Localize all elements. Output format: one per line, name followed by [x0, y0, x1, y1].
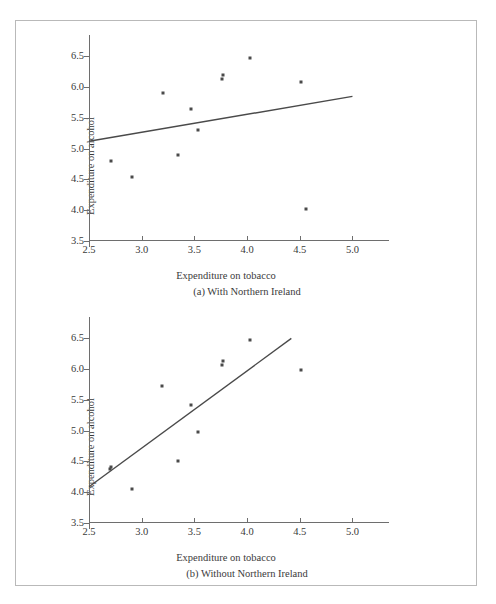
data-point: [160, 384, 163, 387]
data-point: [131, 488, 134, 491]
data-point: [220, 363, 223, 366]
x-tick-label-a-3: 4.0: [241, 245, 254, 256]
data-point: [161, 91, 164, 94]
y-tick-b-1: [84, 492, 89, 493]
y-axis-line-a: [89, 35, 90, 247]
x-tick-label-b-1: 3.0: [135, 527, 148, 538]
x-tick-label-b-4: 4.5: [293, 527, 306, 538]
y-tick-label-a-5: 6.0: [71, 82, 84, 93]
x-tick-label-a-2: 3.5: [188, 245, 201, 256]
data-point: [110, 466, 113, 469]
y-tick-label-a-1: 4.0: [71, 205, 84, 216]
data-point: [176, 154, 179, 157]
chart-panel-b: Expenditure on alcohol 3.54.04.55.05.56.…: [16, 309, 478, 585]
regression-line-b: [89, 323, 363, 523]
y-tick-a-1: [84, 210, 89, 211]
data-point: [221, 359, 224, 362]
data-point: [305, 208, 308, 211]
data-point: [176, 459, 179, 462]
x-tick-b-0: [89, 518, 90, 523]
y-tick-a-5: [84, 87, 89, 88]
x-tick-a-4: [300, 236, 301, 241]
y-tick-label-b-5: 6.0: [71, 364, 84, 375]
data-point: [110, 160, 113, 163]
x-tick-b-1: [142, 518, 143, 523]
y-tick-b-3: [84, 431, 89, 432]
y-tick-label-a-4: 5.5: [71, 113, 84, 124]
plot-area-a: 3.54.04.55.05.56.06.5 2.53.03.54.04.55.0: [89, 41, 363, 241]
y-tick-b-0: [84, 523, 89, 524]
x-tick-b-3: [247, 518, 248, 523]
y-tick-label-a-6: 6.5: [71, 51, 84, 62]
x-tick-a-2: [194, 236, 195, 241]
data-point: [196, 129, 199, 132]
data-point: [249, 57, 252, 60]
data-point: [249, 339, 252, 342]
x-tick-label-a-5: 5.0: [346, 245, 359, 256]
x-tick-b-5: [352, 518, 353, 523]
x-tick-b-4: [300, 518, 301, 523]
x-tick-a-1: [142, 236, 143, 241]
x-axis-line-a: [89, 240, 389, 241]
x-axis-line-b: [89, 522, 389, 523]
y-tick-label-b-6: 6.5: [71, 333, 84, 344]
y-tick-b-6: [84, 338, 89, 339]
regression-line-a: [89, 41, 363, 241]
y-tick-label-a-3: 5.0: [71, 143, 84, 154]
y-tick-a-2: [84, 179, 89, 180]
data-point: [131, 176, 134, 179]
y-tick-label-b-1: 4.0: [71, 487, 84, 498]
y-tick-a-0: [84, 241, 89, 242]
x-tick-a-5: [352, 236, 353, 241]
x-tick-b-2: [194, 518, 195, 523]
y-axis-line-b: [89, 317, 90, 529]
x-tick-a-0: [89, 236, 90, 241]
x-axis-title-a: Expenditure on tobacco: [89, 270, 363, 281]
data-point: [196, 430, 199, 433]
chart-panel-a: Expenditure on alcohol 3.54.04.55.05.56.…: [16, 27, 478, 305]
y-tick-label-b-3: 5.0: [71, 425, 84, 436]
x-tick-label-b-2: 3.5: [188, 527, 201, 538]
y-tick-label-b-4: 5.5: [71, 395, 84, 406]
data-point: [221, 74, 224, 77]
x-tick-label-b-3: 4.0: [241, 527, 254, 538]
y-tick-label-a-2: 4.5: [71, 174, 84, 185]
x-tick-label-a-1: 3.0: [135, 245, 148, 256]
y-tick-b-4: [84, 400, 89, 401]
x-tick-a-3: [247, 236, 248, 241]
data-point: [299, 81, 302, 84]
data-point: [190, 403, 193, 406]
data-point: [299, 368, 302, 371]
figure-frame: Expenditure on alcohol 3.54.04.55.05.56.…: [15, 20, 477, 586]
x-tick-label-a-0: 2.5: [82, 245, 95, 256]
y-tick-a-6: [84, 56, 89, 57]
x-tick-label-b-0: 2.5: [82, 527, 95, 538]
y-tick-label-b-2: 4.5: [71, 456, 84, 467]
plot-area-b: 3.54.04.55.05.56.06.5 2.53.03.54.04.55.0: [89, 323, 363, 523]
x-tick-label-b-5: 5.0: [346, 527, 359, 538]
panel-caption-b: (b) Without Northern Ireland: [16, 568, 478, 579]
y-tick-a-3: [84, 149, 89, 150]
data-point: [220, 78, 223, 81]
y-tick-a-4: [84, 118, 89, 119]
x-axis-title-b: Expenditure on tobacco: [89, 552, 363, 563]
y-tick-b-5: [84, 369, 89, 370]
data-point: [190, 107, 193, 110]
y-tick-b-2: [84, 461, 89, 462]
panel-caption-a: (a) With Northern Ireland: [16, 286, 478, 297]
x-tick-label-a-4: 4.5: [293, 245, 306, 256]
